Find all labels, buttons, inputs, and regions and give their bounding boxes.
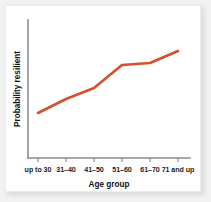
y-axis-title: Probability resilient xyxy=(13,51,22,127)
x-tick-label-1: 31–40 xyxy=(56,166,76,174)
line-chart: up to 30 31–40 41–50 51–60 61–70 71 and … xyxy=(0,0,211,202)
x-tick-label-0: up to 30 xyxy=(25,166,52,174)
x-tick-label-4: 61–70 xyxy=(140,166,160,174)
x-tick-label-2: 41–50 xyxy=(84,166,104,174)
x-tick-label-3: 51–60 xyxy=(112,166,132,174)
figure-root: up to 30 31–40 41–50 51–60 61–70 71 and … xyxy=(0,0,211,202)
data-series-probability-resilient xyxy=(38,51,178,113)
x-axis-title: Age group xyxy=(89,180,130,189)
x-tick-label-5: 71 and up xyxy=(162,166,195,174)
